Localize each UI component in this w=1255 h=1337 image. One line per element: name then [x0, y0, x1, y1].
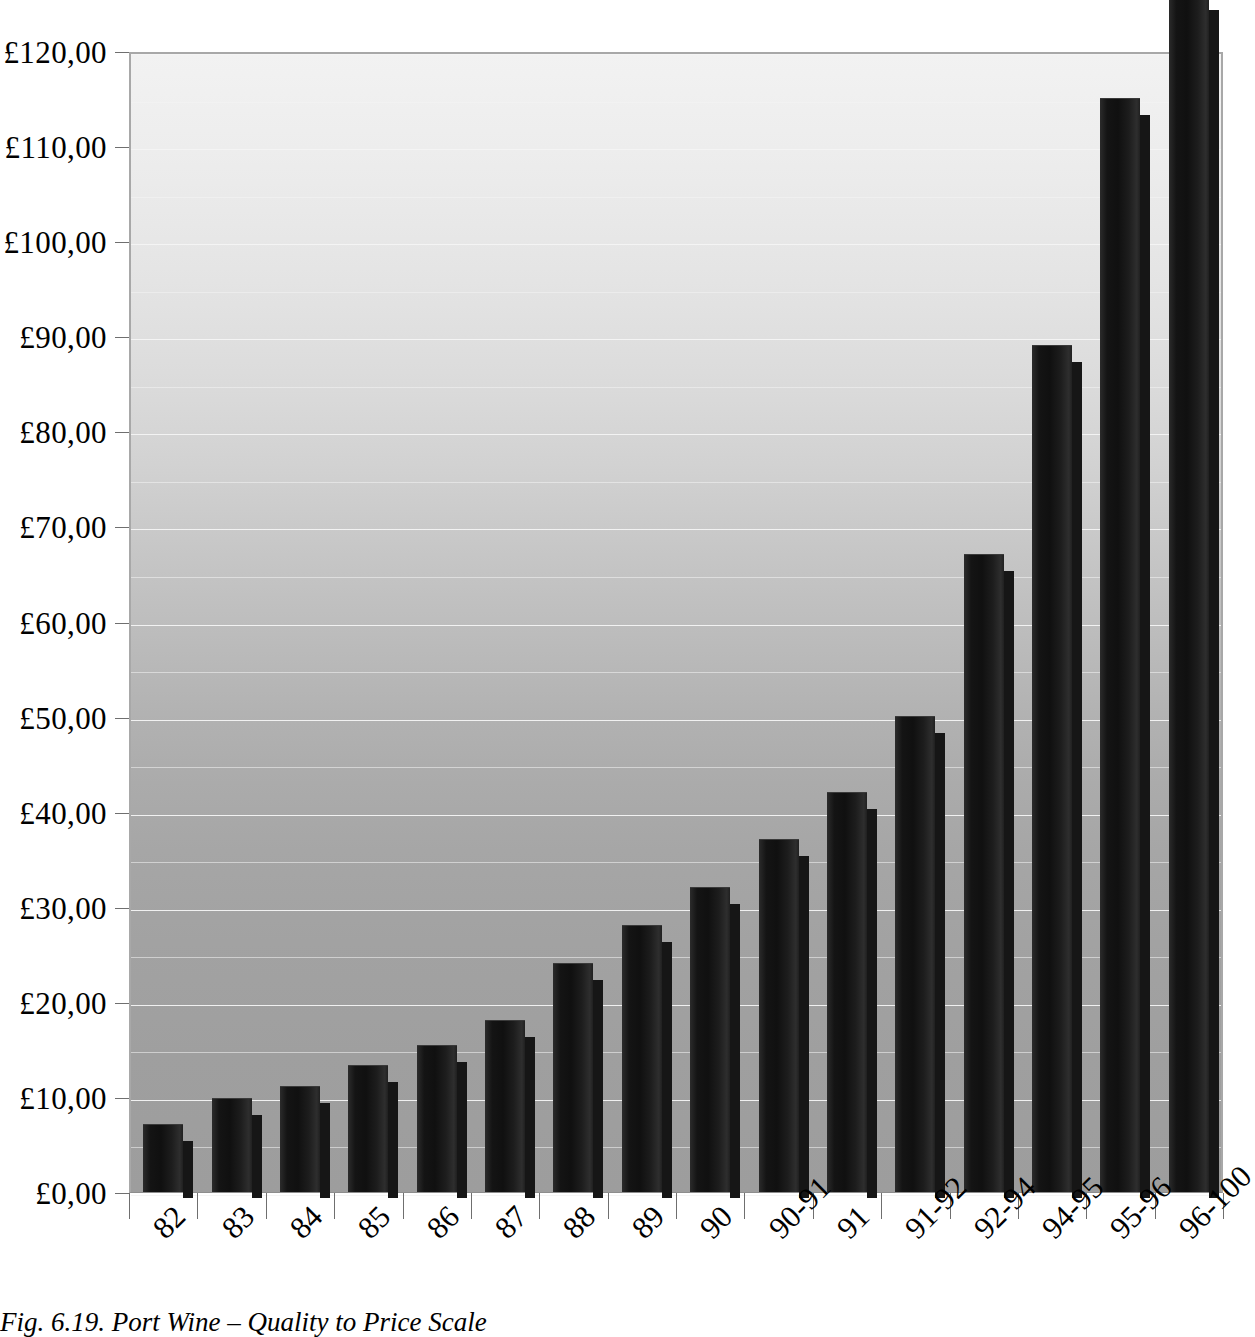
bar-shadow: [457, 1062, 467, 1198]
x-tick-mark: [197, 1193, 198, 1219]
y-tick-mark: [115, 527, 129, 528]
y-tick-label: £60,00: [19, 607, 107, 638]
x-tick-mark: [266, 1193, 267, 1219]
x-tick-mark: [539, 1193, 540, 1219]
bar-shadow: [1140, 115, 1150, 1198]
y-tick-label: £50,00: [19, 702, 107, 733]
bar-body: [827, 792, 867, 1192]
bar-body: [143, 1124, 183, 1192]
y-tick-mark: [115, 813, 129, 814]
bar-body: [622, 925, 662, 1192]
bar[interactable]: [417, 1046, 457, 1192]
figure-caption: Fig. 6.19. Port Wine – Quality to Price …: [0, 1307, 487, 1337]
bar-body: [895, 716, 935, 1192]
bar-body: [417, 1045, 457, 1192]
bar[interactable]: [212, 1099, 252, 1192]
bar-body: [759, 839, 799, 1192]
y-tick-mark: [115, 1193, 129, 1194]
plot-area: [129, 52, 1223, 1193]
bar[interactable]: [1100, 99, 1140, 1192]
y-tick-mark: [115, 337, 129, 338]
y-tick-label: £30,00: [19, 892, 107, 923]
x-tick-mark: [744, 1193, 745, 1219]
y-tick-label: £20,00: [19, 987, 107, 1018]
bar[interactable]: [827, 793, 867, 1192]
bar[interactable]: [759, 840, 799, 1192]
bar[interactable]: [690, 888, 730, 1192]
x-tick-mark: [403, 1193, 404, 1219]
y-tick-mark: [115, 242, 129, 243]
bar[interactable]: [280, 1087, 320, 1192]
bar[interactable]: [622, 926, 662, 1192]
y-tick-mark: [115, 623, 129, 624]
bar-shadow: [662, 942, 672, 1198]
y-tick-label: £10,00: [19, 1082, 107, 1113]
bar-body: [485, 1020, 525, 1192]
x-tick-mark: [471, 1193, 472, 1219]
bar[interactable]: [1169, 0, 1209, 1192]
bar-shadow: [935, 733, 945, 1198]
bar[interactable]: [143, 1125, 183, 1192]
bar-shadow: [388, 1082, 398, 1198]
bar-shadow: [730, 904, 740, 1198]
bar-body: [553, 963, 593, 1192]
y-tick-label: £120,00: [3, 37, 107, 68]
bar[interactable]: [553, 964, 593, 1192]
x-tick-mark: [129, 1193, 130, 1219]
y-axis: £0,00£10,00£20,00£30,00£40,00£50,00£60,0…: [0, 0, 129, 1330]
x-tick-mark: [334, 1193, 335, 1219]
bar[interactable]: [1032, 346, 1072, 1192]
bar-shadow: [593, 980, 603, 1198]
bar-body: [1169, 0, 1209, 1192]
bar-shadow: [1209, 10, 1219, 1198]
bar-body: [1100, 98, 1140, 1192]
bar-shadow: [867, 809, 877, 1198]
bar-series: [131, 54, 1221, 1192]
y-tick-label: £0,00: [35, 1178, 107, 1209]
bar-body: [1032, 345, 1072, 1192]
y-tick-mark: [115, 908, 129, 909]
bar-body: [964, 554, 1004, 1192]
y-tick-mark: [115, 1098, 129, 1099]
bar-shadow: [525, 1037, 535, 1198]
y-tick-label: £110,00: [5, 132, 107, 163]
bar-shadow: [1004, 571, 1014, 1198]
x-tick-mark: [676, 1193, 677, 1219]
y-tick-mark: [115, 52, 129, 53]
x-tick-mark: [881, 1193, 882, 1219]
y-tick-label: £80,00: [19, 417, 107, 448]
bar[interactable]: [348, 1066, 388, 1192]
y-tick-label: £100,00: [3, 227, 107, 258]
bar[interactable]: [485, 1021, 525, 1192]
y-tick-label: £90,00: [19, 322, 107, 353]
bar-shadow: [252, 1115, 262, 1198]
bar-body: [348, 1065, 388, 1192]
bar-body: [690, 887, 730, 1192]
bar-shadow: [1072, 362, 1082, 1198]
bar-body: [280, 1086, 320, 1192]
x-tick-mark: [608, 1193, 609, 1219]
y-tick-mark: [115, 432, 129, 433]
bar-body: [212, 1098, 252, 1192]
y-tick-label: £40,00: [19, 797, 107, 828]
bar[interactable]: [964, 555, 1004, 1192]
bar-shadow: [320, 1103, 330, 1198]
y-tick-mark: [115, 1003, 129, 1004]
bar[interactable]: [895, 717, 935, 1192]
y-tick-label: £70,00: [19, 512, 107, 543]
y-tick-mark: [115, 147, 129, 148]
y-tick-mark: [115, 718, 129, 719]
bar-shadow: [183, 1141, 193, 1198]
bar-shadow: [799, 856, 809, 1198]
